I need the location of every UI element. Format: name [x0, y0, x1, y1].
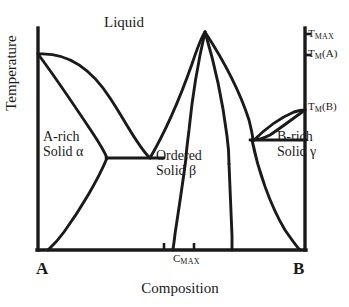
y-tick-label-tmax-subscript: MAX	[315, 32, 334, 41]
x-axis-start-label: A	[36, 260, 48, 278]
beta-solvus-right-curve	[229, 164, 232, 250]
region-label-alpha: A-rich Solid α	[43, 130, 83, 159]
y-tick-label-tmax-base: T	[308, 27, 315, 39]
region-label-beta-line2: Solid β	[156, 164, 202, 179]
y-tick-label-tma: TM(A)	[308, 48, 337, 59]
y-tick-label-tma-base: T	[308, 47, 315, 59]
x-axis-title: Composition	[119, 281, 241, 297]
x-axis-end-label: B	[293, 260, 304, 278]
y-tick-label-tma-suffix: (A)	[322, 47, 337, 59]
x-tick-label-cmax: CMAX	[173, 253, 200, 264]
y-tick-label-tmb-subscript: M	[315, 105, 322, 114]
region-label-alpha-line2: Solid α	[43, 145, 83, 160]
region-label-liquid: Liquid	[104, 15, 144, 31]
region-label-gamma-line1: B-rich	[277, 130, 316, 145]
y-tick-label-tmb-suffix: (B)	[322, 100, 337, 112]
alpha-solvus-curve	[48, 158, 107, 250]
y-axis-title: Temperature	[4, 18, 20, 128]
y-tick-label-tmax: TMAX	[308, 28, 334, 39]
beta-liquidus-right-curve	[205, 32, 253, 141]
y-tick-label-tma-subscript: M	[315, 52, 322, 61]
region-label-alpha-line1: A-rich	[43, 130, 83, 145]
y-tick-label-tmb-base: T	[308, 100, 315, 112]
x-tick-label-cmax-subscript: MAX	[180, 257, 199, 266]
region-label-gamma: B-rich Solid γ	[277, 130, 316, 159]
phase-diagram-figure: Temperature Composition A B Liquid A-ric…	[0, 0, 349, 307]
region-label-beta-line1: Ordered	[156, 149, 202, 164]
region-label-gamma-line2: Solid γ	[277, 145, 316, 160]
y-tick-label-tmb: TM(B)	[308, 101, 337, 112]
region-label-beta: Ordered Solid β	[156, 149, 202, 178]
beta-liquidus-left-curve	[150, 32, 205, 158]
